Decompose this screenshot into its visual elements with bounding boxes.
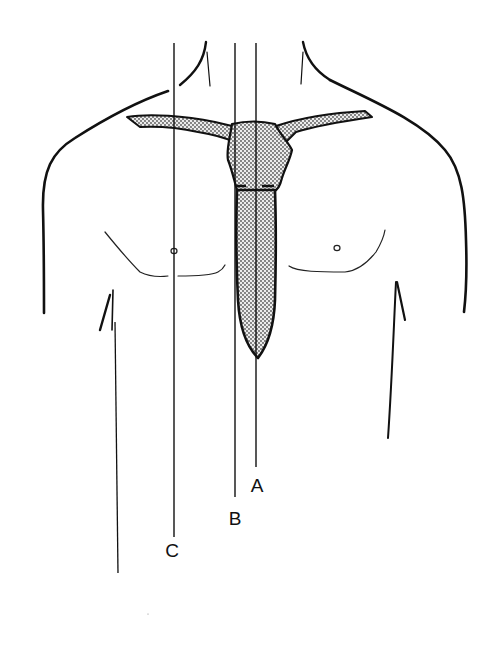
right-arm-line: [388, 282, 396, 438]
right-nipple: [334, 245, 340, 250]
sternum-clavicles: [127, 111, 372, 358]
anatomy-diagram: [0, 0, 491, 660]
left-clavicle: [127, 115, 234, 142]
right-clavicle: [276, 111, 372, 146]
neck-outline: [180, 42, 330, 86]
lower-arrow-line: [115, 322, 118, 573]
speck: [147, 613, 148, 614]
left-arm-line: [100, 295, 110, 330]
label-c: C: [165, 541, 179, 560]
label-b: B: [229, 509, 242, 528]
label-a: A: [251, 476, 264, 495]
